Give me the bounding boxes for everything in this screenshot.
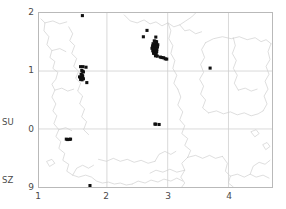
y-tick-label-2: 2 — [18, 8, 34, 17]
data-point — [145, 29, 148, 32]
y-tick-label-0: 0 — [18, 125, 34, 134]
data-point — [154, 123, 157, 126]
data-point — [81, 78, 84, 81]
y-side-label-su: SU — [2, 118, 14, 127]
data-point — [81, 65, 84, 68]
data-point — [158, 123, 161, 126]
scatter-map-figure: 2 1 0 9 SU SZ 1 2 3 4 — [0, 0, 286, 209]
x-tick-label-1: 1 — [30, 192, 46, 201]
data-point — [69, 138, 72, 141]
plot-area — [38, 12, 273, 188]
data-point — [165, 58, 168, 61]
x-tick-label-3: 3 — [160, 192, 176, 201]
data-point — [81, 14, 84, 17]
y-tick-label-9: 9 — [18, 183, 34, 192]
x-tick-label-4: 4 — [221, 192, 237, 201]
data-point — [142, 35, 145, 38]
x-tick-label-2: 2 — [98, 192, 114, 201]
data-point — [88, 184, 91, 187]
data-point — [209, 67, 212, 70]
data-point — [85, 81, 88, 84]
data-point — [154, 36, 157, 39]
scatter-series-records — [65, 14, 212, 187]
y-side-label-sz: SZ — [2, 176, 14, 185]
y-tick-label-1: 1 — [18, 66, 34, 75]
data-points-layer — [39, 13, 272, 187]
data-point — [84, 66, 87, 69]
data-point — [156, 55, 159, 58]
